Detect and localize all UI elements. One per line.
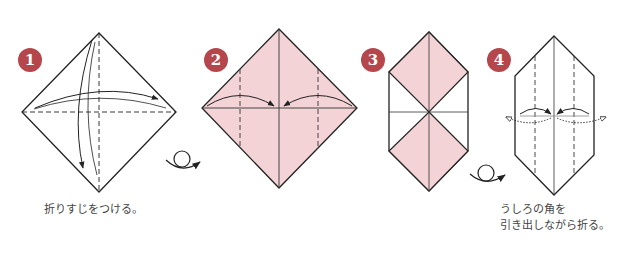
step-3-diagram [389, 32, 468, 191]
turn-over-icon [470, 165, 505, 181]
step-3-badge: 3 [361, 48, 385, 72]
origami-instructions: 1 2 3 4 折りすじをつける。 うしろの角を 引き出しながら折る。 [0, 0, 625, 263]
step-1-diagram [22, 33, 176, 192]
step-4-badge: 4 [487, 48, 511, 72]
step-4-caption-line1: うしろの角を [500, 202, 566, 218]
turn-over-icon [166, 151, 200, 168]
step-4-caption-line2: 引き出しながら折る。 [500, 218, 610, 234]
step-4-diagram [506, 36, 606, 195]
step-1-caption: 折りすじをつける。 [44, 202, 143, 218]
step-1-badge: 1 [18, 48, 42, 72]
step-2-badge: 2 [204, 48, 228, 72]
